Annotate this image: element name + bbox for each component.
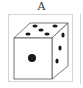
top-pip <box>52 24 57 27</box>
right-pip <box>55 58 58 63</box>
top-pip <box>38 28 43 31</box>
top-pip <box>32 24 37 27</box>
right-pip <box>61 32 64 37</box>
right-pip <box>58 45 61 50</box>
front-pip <box>28 54 36 62</box>
top-pip <box>25 32 30 35</box>
top-pip <box>44 32 49 35</box>
die-diagram <box>0 0 83 88</box>
